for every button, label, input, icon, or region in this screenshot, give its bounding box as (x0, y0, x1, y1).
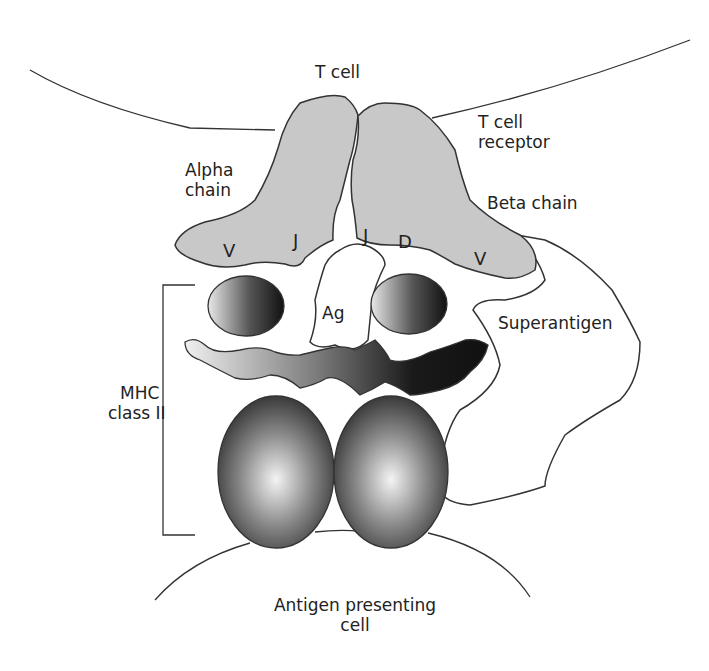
diagram-graphics (0, 0, 709, 671)
label-mhc-1: MHC (120, 383, 159, 403)
mhc-beta1-domain (371, 274, 447, 334)
mhc-beta2-domain (334, 396, 448, 548)
mhc-bracket (163, 285, 195, 535)
mhc-groove-shape (185, 340, 488, 395)
label-alpha-chain-2: chain (185, 180, 231, 200)
apc-membrane (155, 530, 530, 600)
segment-beta-d: D (398, 231, 412, 252)
label-t-cell-receptor-2: receptor (478, 132, 550, 152)
segment-beta-j: J (363, 225, 368, 246)
label-t-cell-receptor-1: T cell (478, 112, 523, 132)
segment-beta-v: V (474, 248, 486, 269)
label-alpha-chain-1: Alpha (185, 160, 233, 180)
mhc-alpha2-domain (218, 396, 334, 548)
label-mhc-2: class II (108, 403, 166, 423)
label-superantigen: Superantigen (498, 313, 612, 333)
label-apc-1: Antigen presenting (230, 595, 480, 615)
label-apc-2: cell (230, 615, 480, 635)
t-cell-membrane-right (432, 40, 690, 118)
segment-alpha-v: V (223, 240, 235, 261)
mhc-alpha1-domain (208, 276, 284, 336)
segment-alpha-j: J (293, 230, 298, 251)
label-t-cell: T cell (315, 62, 360, 82)
label-antigen: Ag (322, 303, 344, 323)
tcr-mhc-diagram: T cell T cell receptor Alpha chain Beta … (0, 0, 709, 671)
label-beta-chain: Beta chain (487, 193, 578, 213)
t-cell-membrane (30, 70, 275, 130)
